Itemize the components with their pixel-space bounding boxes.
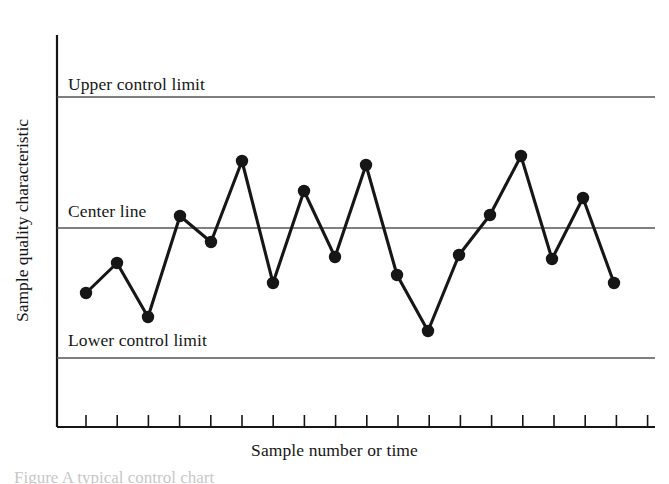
- figure-caption-fragment: Figure A typical control chart: [14, 468, 454, 484]
- data-point: [205, 236, 217, 248]
- chart-background: [0, 0, 669, 484]
- data-point: [453, 249, 465, 261]
- data-point: [111, 257, 123, 269]
- control-chart-figure: Upper control limit Center line Lower co…: [0, 0, 669, 484]
- data-point: [484, 209, 496, 221]
- lower-control-limit-label: Lower control limit: [68, 330, 207, 351]
- upper-control-limit-label: Upper control limit: [68, 74, 205, 95]
- y-axis-title: Sample quality characteristic: [13, 118, 34, 321]
- data-point: [267, 277, 279, 289]
- data-point: [329, 251, 341, 263]
- center-line-label: Center line: [68, 201, 146, 222]
- data-point: [577, 192, 589, 204]
- data-point: [236, 155, 248, 167]
- data-point: [360, 159, 372, 171]
- data-point: [422, 325, 434, 337]
- data-point: [174, 210, 186, 222]
- y-axis-title-container: Sample quality characteristic: [0, 0, 46, 440]
- data-point: [142, 311, 154, 323]
- control-chart-canvas: [0, 0, 669, 484]
- data-point: [391, 269, 403, 281]
- data-point: [515, 150, 527, 162]
- data-point: [80, 287, 92, 299]
- x-axis-title: Sample number or time: [0, 440, 669, 461]
- data-point: [608, 277, 620, 289]
- data-point: [298, 185, 310, 197]
- data-point: [546, 253, 558, 265]
